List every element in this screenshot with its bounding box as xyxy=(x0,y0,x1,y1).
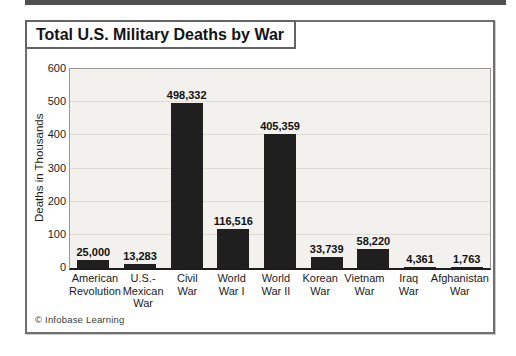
x-label-1: U.S.-MexicanWar xyxy=(121,272,165,310)
y-tick-label-300: 300 xyxy=(48,162,66,174)
bar-4 xyxy=(264,134,296,268)
bar-slot-3: 116,516 xyxy=(210,69,257,268)
y-tick-label-0: 0 xyxy=(60,261,66,273)
x-label-7: IraqWar xyxy=(387,272,431,310)
chart-panel: Total U.S. Military Deaths by War Deaths… xyxy=(25,20,495,334)
bar-slot-1: 13,283 xyxy=(117,69,164,268)
x-label-4: WorldWar II xyxy=(254,272,298,310)
bar-value-label-5: 33,739 xyxy=(310,243,344,255)
x-label-0: AmericanRevolution xyxy=(69,272,121,310)
bar-value-label-7: 4,361 xyxy=(406,253,434,265)
bar-slot-4: 405,359 xyxy=(257,69,304,268)
bar-7 xyxy=(404,267,436,268)
x-axis-labels: AmericanRevolutionU.S.-MexicanWarCivilWa… xyxy=(69,272,489,310)
bar-value-label-2: 498,332 xyxy=(167,89,207,101)
bar-5 xyxy=(311,257,343,268)
y-tick-label-500: 500 xyxy=(48,95,66,107)
chart-title-box: Total U.S. Military Deaths by War xyxy=(25,20,296,49)
bar-0 xyxy=(77,260,109,268)
x-label-3: WorldWar I xyxy=(210,272,254,310)
bar-slot-8: 1,763 xyxy=(443,69,490,268)
bar-slot-5: 33,739 xyxy=(303,69,350,268)
bars-row: 25,00013,283498,332116,516405,35933,7395… xyxy=(70,69,490,268)
y-tick-label-200: 200 xyxy=(48,195,66,207)
x-label-6: VietnamWar xyxy=(342,272,386,310)
bar-value-label-3: 116,516 xyxy=(214,215,253,227)
top-rule xyxy=(25,0,506,5)
x-label-8: AfghanistanWar xyxy=(431,272,489,310)
y-axis-ticks: 0100200300400500600 xyxy=(39,68,66,267)
bar-6 xyxy=(357,249,389,268)
bar-slot-2: 498,332 xyxy=(163,69,210,268)
bar-value-label-6: 58,220 xyxy=(357,235,391,247)
bar-slot-7: 4,361 xyxy=(397,69,444,268)
y-tick-label-400: 400 xyxy=(48,128,66,140)
bar-2 xyxy=(171,103,203,268)
chart-title: Total U.S. Military Deaths by War xyxy=(36,26,284,44)
y-tick-label-600: 600 xyxy=(48,62,66,74)
bar-3 xyxy=(217,229,249,268)
bar-slot-0: 25,000 xyxy=(70,69,117,268)
plot-area: 25,00013,283498,332116,516405,35933,7395… xyxy=(69,68,491,270)
bar-value-label-1: 13,283 xyxy=(123,250,157,262)
bar-value-label-8: 1,763 xyxy=(453,253,481,265)
bar-1 xyxy=(124,264,156,268)
credit-text: © Infobase Learning xyxy=(35,314,125,325)
bar-value-label-4: 405,359 xyxy=(260,120,300,132)
bar-value-label-0: 25,000 xyxy=(77,246,111,258)
bar-slot-6: 58,220 xyxy=(350,69,397,268)
x-label-2: CivilWar xyxy=(165,272,209,310)
x-label-5: KoreanWar xyxy=(298,272,342,310)
bar-8 xyxy=(451,267,483,268)
y-tick-label-100: 100 xyxy=(48,228,66,240)
